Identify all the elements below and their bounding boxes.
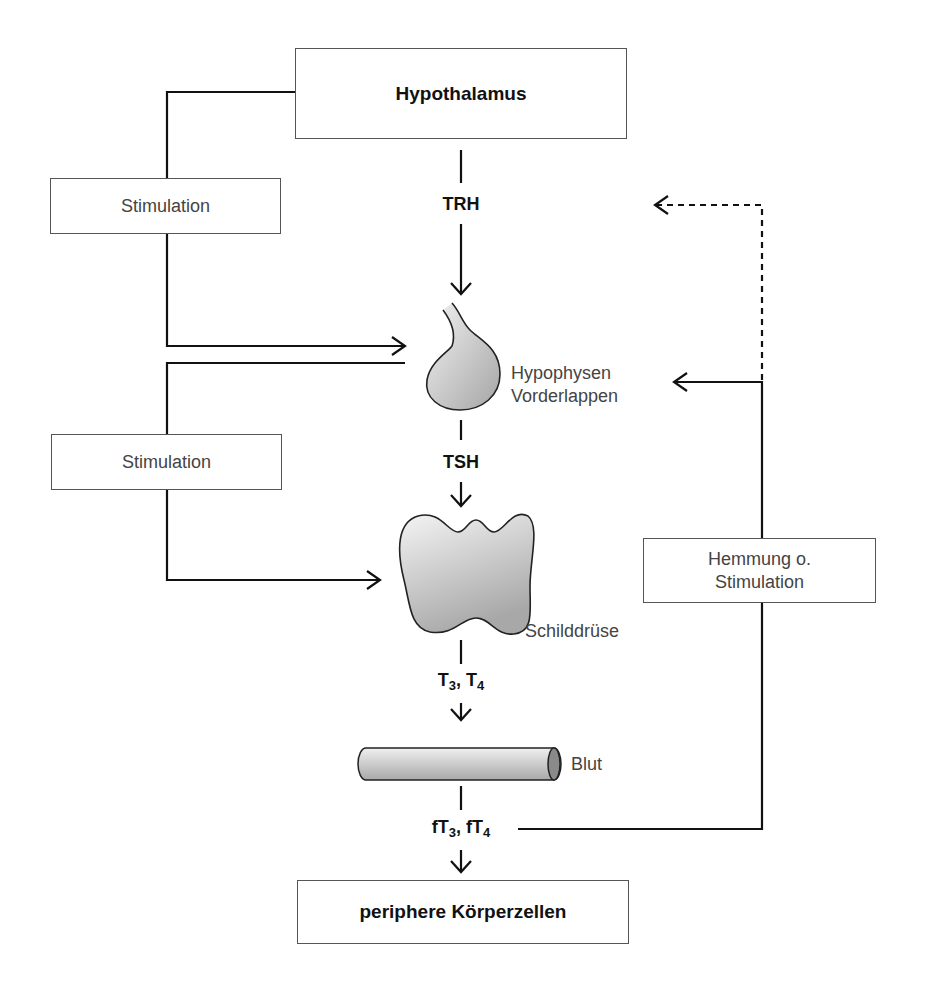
ft3-ft4-label: fT3, fT4 [432, 817, 490, 840]
blood-vessel-illustration [358, 748, 561, 780]
stimulation-label-2: Stimulation [122, 451, 211, 474]
trh-label: TRH [443, 194, 480, 215]
hypothalamus-box: Hypothalamus [295, 48, 627, 139]
feedback-box: Hemmung o. Stimulation [643, 538, 876, 603]
stimulation-label-1: Stimulation [121, 195, 210, 218]
stimulation-box-1: Stimulation [50, 178, 281, 234]
thyroid-label: Schilddrüse [525, 620, 619, 643]
peripheral-cells-label: periphere Körperzellen [360, 901, 567, 923]
thyroid-illustration [400, 514, 534, 634]
pituitary-label: Hypophysen Vorderlappen [511, 362, 618, 408]
hypothalamus-label: Hypothalamus [396, 83, 527, 105]
tsh-label: TSH [443, 452, 479, 473]
stimulation-box-2: Stimulation [51, 434, 282, 490]
feedback-label-line2: Stimulation [715, 571, 804, 594]
pituitary-illustration [427, 303, 500, 410]
peripheral-cells-box: periphere Körperzellen [297, 880, 629, 944]
blood-label: Blut [571, 753, 602, 776]
connector-layer [0, 0, 925, 999]
feedback-dashed-path [655, 205, 762, 380]
feedback-label-line1: Hemmung o. [708, 548, 811, 571]
t3-t4-label: T3, T4 [438, 670, 484, 693]
